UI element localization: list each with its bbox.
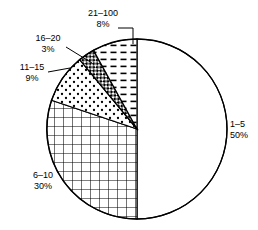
pie-label-21-100-value: 8%	[72, 19, 134, 30]
pie-label-1-5: 1–5 50%	[230, 119, 258, 140]
pie-slice-1-5	[137, 39, 227, 219]
pie-label-21-100: 21–100 8%	[72, 8, 134, 29]
pie-label-6-10: 6–10 30%	[16, 170, 70, 191]
pie-label-16-20-name: 16–20	[20, 33, 76, 44]
pie-label-6-10-value: 30%	[16, 181, 70, 192]
pie-label-1-5-name: 1–5	[230, 119, 258, 130]
pie-label-21-100-name: 21–100	[72, 8, 134, 19]
pie-label-11-15-value: 9%	[6, 73, 58, 84]
pie-label-11-15: 11–15 9%	[6, 62, 58, 83]
pie-label-1-5-value: 50%	[230, 130, 258, 141]
pie-chart: 21–100 8% 16–20 3% 11–15 9% 1–5 50% 6–10…	[0, 0, 258, 230]
pie-label-6-10-name: 6–10	[16, 170, 70, 181]
pie-label-16-20-value: 3%	[20, 44, 76, 55]
pie-label-11-15-name: 11–15	[6, 62, 58, 73]
pie-label-16-20: 16–20 3%	[20, 33, 76, 54]
